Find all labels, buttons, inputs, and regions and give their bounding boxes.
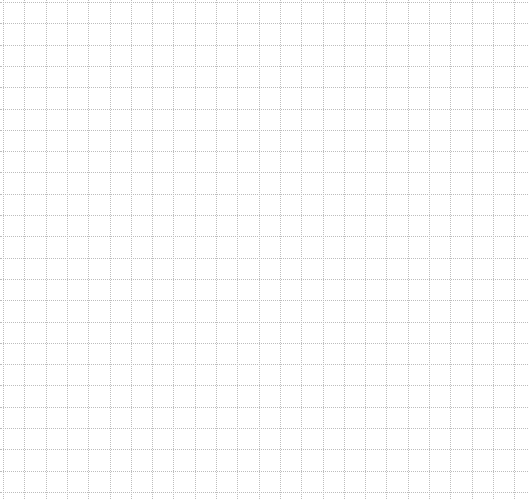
grid-vertical-line bbox=[280, 0, 281, 499]
grid-horizontal-line bbox=[0, 151, 528, 152]
grid-vertical-line bbox=[344, 0, 345, 499]
grid-horizontal-line bbox=[0, 492, 528, 493]
grid-vertical-line bbox=[67, 0, 68, 499]
grid-vertical-line bbox=[195, 0, 196, 499]
grid-horizontal-line bbox=[0, 130, 528, 131]
grid-vertical-line bbox=[429, 0, 430, 499]
grid-vertical-line bbox=[323, 0, 324, 499]
grid-horizontal-line bbox=[0, 300, 528, 301]
grid-vertical-line bbox=[173, 0, 174, 499]
grid-horizontal-line bbox=[0, 364, 528, 365]
grid-vertical-line bbox=[237, 0, 238, 499]
grid-vertical-line bbox=[3, 0, 4, 499]
grid-horizontal-line bbox=[0, 449, 528, 450]
grid-vertical-line bbox=[408, 0, 409, 499]
grid-vertical-line bbox=[110, 0, 111, 499]
grid-horizontal-line bbox=[0, 215, 528, 216]
grid-vertical-line bbox=[131, 0, 132, 499]
grid-horizontal-line bbox=[0, 172, 528, 173]
grid-vertical-line bbox=[301, 0, 302, 499]
grid-horizontal-line bbox=[0, 66, 528, 67]
grid-horizontal-line bbox=[0, 471, 528, 472]
grid-vertical-line bbox=[259, 0, 260, 499]
grid-horizontal-line bbox=[0, 322, 528, 323]
grid-horizontal-line bbox=[0, 87, 528, 88]
grid-horizontal-line bbox=[0, 258, 528, 259]
grid-vertical-line bbox=[24, 0, 25, 499]
grid-horizontal-line bbox=[0, 428, 528, 429]
grid-vertical-line bbox=[88, 0, 89, 499]
grid-vertical-line bbox=[450, 0, 451, 499]
grid-horizontal-line bbox=[0, 279, 528, 280]
grid-vertical-line bbox=[46, 0, 47, 499]
grid-vertical-line bbox=[514, 0, 515, 499]
grid-vertical-line bbox=[365, 0, 366, 499]
grid-horizontal-line bbox=[0, 407, 528, 408]
grid-horizontal-line bbox=[0, 109, 528, 110]
grid-horizontal-line bbox=[0, 236, 528, 237]
grid-horizontal-line bbox=[0, 343, 528, 344]
grid-vertical-line bbox=[152, 0, 153, 499]
grid-horizontal-line bbox=[0, 2, 528, 3]
grid-horizontal-line bbox=[0, 194, 528, 195]
grid-vertical-line bbox=[216, 0, 217, 499]
grid-horizontal-line bbox=[0, 385, 528, 386]
grid-horizontal-line bbox=[0, 23, 528, 24]
grid-vertical-line bbox=[472, 0, 473, 499]
grid-vertical-line bbox=[386, 0, 387, 499]
grid-paper bbox=[0, 0, 528, 499]
grid-horizontal-line bbox=[0, 45, 528, 46]
grid-vertical-line bbox=[493, 0, 494, 499]
